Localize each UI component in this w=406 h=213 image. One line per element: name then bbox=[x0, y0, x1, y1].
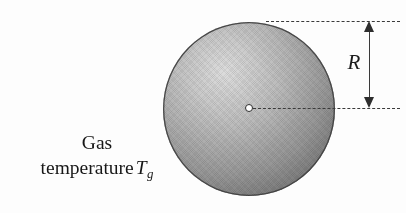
top-tangent-dashed-line bbox=[266, 21, 400, 22]
temperature-symbol: T bbox=[134, 157, 147, 178]
caption-line-2: temperatureTg bbox=[12, 155, 182, 183]
arrow-down-icon bbox=[364, 97, 374, 108]
caption-line-1: Gas bbox=[82, 132, 112, 153]
radius-dashed-line bbox=[253, 108, 400, 109]
radius-label: R bbox=[342, 52, 366, 73]
caption-line-2-text: temperature bbox=[41, 157, 134, 178]
sphere-center-point bbox=[245, 104, 253, 112]
temperature-subscript: g bbox=[147, 167, 154, 181]
radius-dimension-stem bbox=[369, 24, 370, 106]
arrow-up-icon bbox=[364, 21, 374, 32]
gas-temperature-caption: Gas temperatureTg bbox=[12, 130, 182, 183]
figure-canvas: R Gas temperatureTg bbox=[0, 0, 406, 213]
